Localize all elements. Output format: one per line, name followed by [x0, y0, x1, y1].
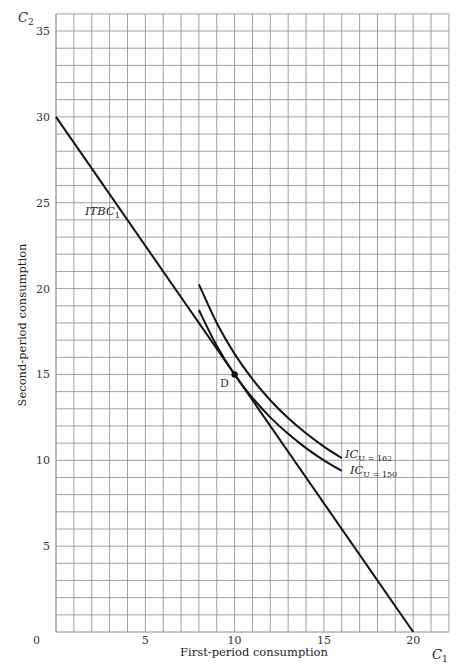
point-d-marker — [231, 371, 237, 377]
origin-label: 0 — [33, 634, 40, 647]
y-tick-label: 30 — [36, 111, 50, 124]
point-d-label: D — [220, 377, 229, 390]
chart: 51015205101520253035 C2 C1 First-period … — [0, 0, 461, 667]
y-tick-label: 10 — [36, 454, 50, 467]
x-tick-label: 5 — [142, 634, 149, 647]
x-tick-label: 20 — [406, 634, 420, 647]
ic-162-label: ICU = 162 — [344, 447, 392, 463]
y-tick-label: 5 — [43, 540, 50, 553]
axis-ticks: 51015205101520253035 — [36, 25, 420, 647]
x-axis-symbol: C1 — [432, 647, 448, 664]
y-axis-symbol: C2 — [18, 10, 34, 27]
itbc-label: ITBC1 — [84, 204, 120, 220]
y-tick-label: 20 — [36, 283, 50, 296]
y-tick-label: 15 — [36, 368, 50, 381]
y-tick-label: 25 — [36, 197, 50, 210]
y-tick-label: 35 — [36, 25, 50, 38]
x-axis-label: First-period consumption — [180, 645, 328, 659]
ic-150-label: ICU = 150 — [349, 463, 397, 479]
y-axis-label: Second-period consumption — [15, 243, 29, 407]
grid — [56, 14, 449, 632]
